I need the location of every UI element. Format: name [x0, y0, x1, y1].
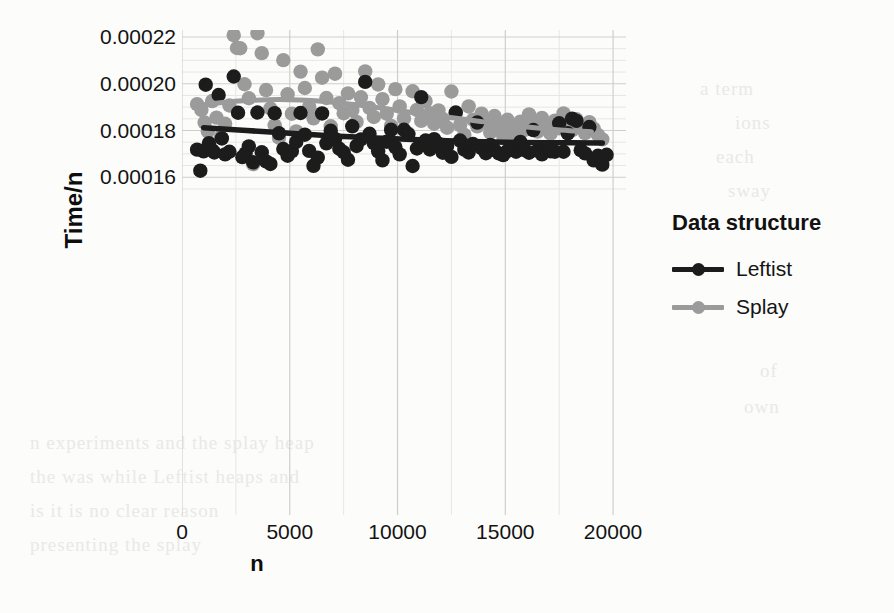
y-axis-tick-labels: 0.000160.000180.000200.00022	[0, 0, 176, 613]
data-point	[222, 145, 236, 159]
data-point	[215, 131, 229, 145]
x-axis-label: n	[0, 551, 894, 577]
legend-label-leftist: Leftist	[736, 257, 792, 281]
x-axis-tick-label: 15000	[476, 521, 534, 542]
data-point	[315, 70, 329, 84]
data-point	[367, 110, 381, 124]
data-point	[263, 157, 277, 171]
data-point	[371, 77, 385, 91]
data-point	[384, 123, 398, 137]
data-point	[193, 164, 207, 178]
y-axis-tick-label: 0.00020	[100, 73, 176, 94]
legend-item-splay[interactable]: Splay	[672, 290, 872, 324]
legend-swatch-splay	[672, 296, 724, 318]
x-axis-tick-label: 0	[176, 521, 188, 542]
y-axis-tick-label: 0.00018	[100, 120, 176, 141]
data-point	[293, 64, 307, 78]
scatter-chart: Time/n 0.000160.000180.000200.00022 0500…	[0, 0, 894, 613]
legend-label-splay: Splay	[736, 295, 789, 319]
data-point	[311, 150, 325, 164]
data-point	[227, 30, 241, 42]
data-point	[242, 139, 256, 153]
legend-title: Data structure	[672, 210, 872, 236]
data-point	[440, 121, 454, 135]
data-point	[231, 106, 245, 120]
x-axis-tick-label: 10000	[368, 521, 426, 542]
data-point	[392, 147, 406, 161]
x-axis-label-text: n	[250, 551, 263, 577]
data-point	[599, 148, 613, 162]
data-point	[199, 77, 213, 91]
x-axis-tick-label: 5000	[266, 521, 313, 542]
data-point	[298, 81, 312, 95]
data-point	[233, 41, 247, 55]
data-point	[276, 53, 290, 67]
data-point	[461, 99, 475, 113]
data-point	[250, 105, 264, 119]
data-point	[414, 90, 428, 104]
data-point	[444, 84, 458, 98]
legend-item-leftist[interactable]: Leftist	[672, 252, 872, 286]
data-point	[375, 153, 389, 167]
plot-area	[182, 30, 626, 515]
plot-canvas	[182, 30, 626, 515]
data-point	[345, 119, 359, 133]
data-point	[444, 150, 458, 164]
y-axis-tick-label: 0.00022	[100, 26, 176, 47]
data-point	[569, 114, 583, 128]
data-point	[341, 86, 355, 100]
legend: Data structure Leftist Splay	[672, 210, 872, 328]
legend-swatch-leftist	[672, 258, 724, 280]
data-point	[227, 69, 241, 83]
y-axis-tick-label: 0.00016	[100, 166, 176, 187]
data-point	[375, 92, 389, 106]
data-point	[405, 159, 419, 173]
data-point	[556, 145, 570, 159]
data-point	[293, 106, 307, 120]
data-point	[358, 75, 372, 89]
data-point	[328, 67, 342, 81]
data-point	[255, 46, 269, 60]
data-point	[315, 106, 329, 120]
data-point	[341, 153, 355, 167]
data-point	[388, 82, 402, 96]
data-point	[250, 30, 264, 40]
data-point	[267, 106, 281, 120]
data-point	[259, 83, 273, 97]
data-point	[311, 42, 325, 56]
x-axis-tick-label: 20000	[584, 521, 642, 542]
